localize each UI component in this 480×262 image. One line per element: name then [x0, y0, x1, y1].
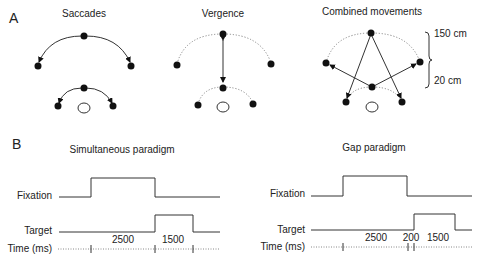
- far-fixation-dot: [81, 33, 88, 40]
- interval-1500: 1500: [162, 234, 185, 245]
- far-dotted-arc: [177, 34, 271, 64]
- near-left-dot: [195, 102, 202, 109]
- panel-b: B Simultaneous paradigm Fixation Target …: [7, 136, 472, 254]
- interval-2500: 2500: [112, 234, 135, 245]
- eye-icon: [366, 102, 378, 112]
- interval-1500: 1500: [427, 232, 450, 243]
- near-left-dot: [343, 99, 350, 106]
- far-right-dot: [268, 61, 275, 68]
- saccade-arrow-near-right: [86, 88, 112, 103]
- far-left-dot: [323, 60, 330, 67]
- fixation-trace: [311, 176, 472, 196]
- near-fixation-dot: [220, 85, 227, 92]
- eye-icon: [78, 103, 90, 113]
- target-label: Target: [277, 224, 305, 235]
- near-right-dot: [399, 99, 406, 106]
- simultaneous-title: Simultaneous paradigm: [69, 144, 174, 155]
- vergence-title: Vergence: [202, 8, 245, 19]
- far-left-target-dot: [35, 63, 42, 70]
- vergence-diagram: Vergence: [174, 8, 275, 112]
- saccade-arrow-near-left: [59, 88, 82, 103]
- panel-a-letter: A: [9, 10, 19, 26]
- figure-canvas: A Saccades Vergence: [0, 0, 480, 262]
- far-right-target-dot: [128, 63, 135, 70]
- far-right-dot: [417, 59, 424, 66]
- time-label: Time (ms): [7, 243, 52, 254]
- far-fixation-dot: [220, 31, 227, 38]
- time-label: Time (ms): [260, 241, 305, 252]
- saccades-title: Saccades: [62, 8, 106, 19]
- fixation-trace: [59, 178, 220, 197]
- far-fixation-dot: [368, 30, 375, 37]
- near-fixation-dot: [369, 84, 376, 91]
- panel-b-letter: B: [12, 136, 21, 152]
- combined-movements-diagram: Combined movements 150 cm 20 cm: [322, 6, 467, 112]
- near-right-dot: [250, 101, 257, 108]
- arrow-near-to-far-left: [330, 65, 372, 87]
- target-trace: [311, 214, 472, 230]
- saccade-arrow-far-right: [86, 36, 130, 62]
- near-fixation-dot: [81, 85, 88, 92]
- panel-a: A Saccades Vergence: [9, 6, 467, 113]
- far-distance-label: 150 cm: [434, 28, 467, 39]
- interval-2500: 2500: [365, 232, 388, 243]
- near-left-target-dot: [55, 103, 62, 110]
- simultaneous-paradigm: Simultaneous paradigm Fixation Target Ti…: [7, 144, 220, 254]
- distance-brace: [425, 32, 432, 88]
- saccade-arrow-far-left: [39, 36, 82, 62]
- gap-title: Gap paradigm: [342, 142, 405, 153]
- arrow-far-to-near-left: [347, 34, 371, 98]
- fixation-label: Fixation: [270, 188, 305, 199]
- near-right-target-dot: [110, 103, 117, 110]
- saccades-diagram: Saccades: [35, 8, 135, 113]
- eye-icon: [217, 102, 229, 112]
- fixation-label: Fixation: [17, 190, 52, 201]
- target-trace: [59, 215, 220, 232]
- combined-title: Combined movements: [322, 6, 422, 17]
- target-label: Target: [24, 225, 52, 236]
- near-distance-label: 20 cm: [434, 75, 461, 86]
- gap-paradigm: Gap paradigm Fixation Target Time (ms) 2…: [260, 142, 472, 252]
- interval-200: 200: [403, 232, 420, 243]
- far-left-dot: [174, 62, 181, 69]
